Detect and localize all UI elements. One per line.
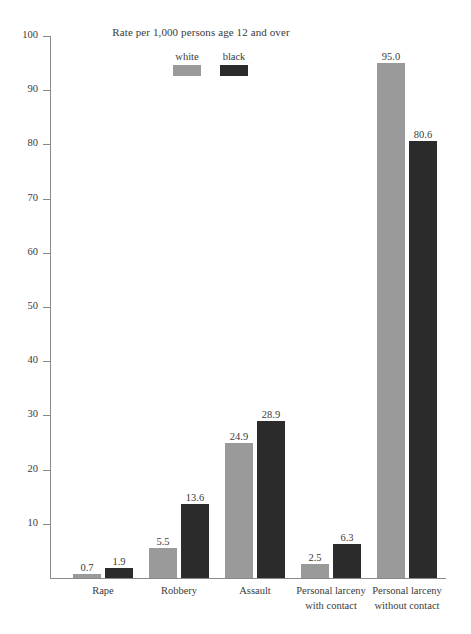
bar-white: 0.7 bbox=[73, 574, 101, 578]
bar-group: 2.56.3 bbox=[301, 36, 361, 578]
x-axis-label-line: Robbery bbox=[161, 585, 197, 596]
bar-black: 80.6 bbox=[409, 141, 437, 578]
bar-black: 6.3 bbox=[333, 544, 361, 578]
y-axis-tick-label: 50 bbox=[0, 300, 38, 311]
bar-black: 1.9 bbox=[105, 568, 133, 578]
bar-value-label: 13.6 bbox=[186, 492, 204, 503]
bar-value-label: 5.5 bbox=[156, 536, 169, 547]
y-axis-tick-label: 20 bbox=[0, 463, 38, 474]
bar-value-label: 95.0 bbox=[382, 51, 400, 62]
bar-chart: Rate per 1,000 persons age 12 and over w… bbox=[0, 0, 471, 634]
bar-group: 0.71.9 bbox=[73, 36, 133, 578]
y-axis-tick bbox=[43, 36, 50, 37]
bar-black: 28.9 bbox=[257, 421, 285, 578]
x-axis-label-line: Rape bbox=[92, 585, 114, 596]
y-axis-tick bbox=[43, 415, 50, 416]
bar-value-label: 28.9 bbox=[262, 409, 280, 420]
y-axis-tick-label: 90 bbox=[0, 83, 38, 94]
x-axis-label-line: without contact bbox=[362, 598, 452, 613]
bar-black: 13.6 bbox=[181, 504, 209, 578]
bar-white: 5.5 bbox=[149, 548, 177, 578]
bar-value-label: 1.9 bbox=[112, 556, 125, 567]
x-axis-label-line: Assault bbox=[239, 585, 271, 596]
bar-white: 2.5 bbox=[301, 564, 329, 578]
y-axis-tick bbox=[43, 90, 50, 91]
x-axis-category-labels: RapeRobberyAssaultPersonal larcenywith c… bbox=[51, 583, 446, 631]
y-axis-tick-label: 100 bbox=[0, 29, 38, 40]
bar-value-label: 0.7 bbox=[80, 562, 93, 573]
bar-group: 24.928.9 bbox=[225, 36, 285, 578]
x-axis-label-line: Personal larceny bbox=[372, 585, 442, 596]
bar-value-label: 2.5 bbox=[308, 552, 321, 563]
bar-group: 5.513.6 bbox=[149, 36, 209, 578]
y-axis-tick bbox=[43, 361, 50, 362]
y-axis-tick bbox=[43, 524, 50, 525]
plot-area: 0.71.95.513.624.928.92.56.395.080.6 bbox=[51, 36, 446, 578]
bar-white: 95.0 bbox=[377, 63, 405, 578]
bar-value-label: 6.3 bbox=[340, 532, 353, 543]
bar-value-label: 80.6 bbox=[414, 129, 432, 140]
y-axis-tick-label: 60 bbox=[0, 246, 38, 257]
y-axis-tick bbox=[43, 199, 50, 200]
y-axis-tick bbox=[43, 253, 50, 254]
bar-white: 24.9 bbox=[225, 443, 253, 578]
bar-value-label: 24.9 bbox=[230, 431, 248, 442]
y-axis-tick-label: 10 bbox=[0, 517, 38, 528]
y-axis-tick bbox=[43, 470, 50, 471]
x-axis-line bbox=[50, 578, 446, 579]
y-axis-tick bbox=[43, 307, 50, 308]
y-axis-tick-label: 80 bbox=[0, 137, 38, 148]
y-axis-tick-label: 30 bbox=[0, 408, 38, 419]
y-axis-tick bbox=[43, 144, 50, 145]
x-axis-label-line: Personal larceny bbox=[296, 585, 366, 596]
bar-group: 95.080.6 bbox=[377, 36, 437, 578]
x-axis-label: Personal larcenywithout contact bbox=[362, 583, 452, 613]
y-axis-tick-label: 40 bbox=[0, 354, 38, 365]
y-axis-tick-label: 70 bbox=[0, 192, 38, 203]
